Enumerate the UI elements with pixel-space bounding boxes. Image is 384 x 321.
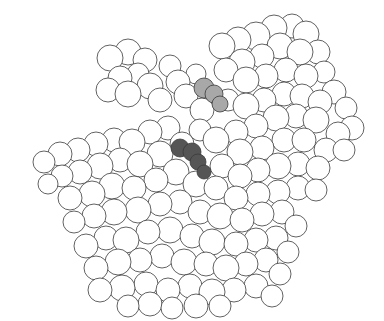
atom [125, 197, 151, 223]
atom [74, 234, 98, 258]
atom [228, 164, 252, 188]
atom [128, 248, 152, 272]
atom [38, 174, 58, 194]
atom [88, 278, 112, 302]
molecule-figure [0, 0, 384, 321]
atom [285, 215, 307, 237]
atom [136, 220, 160, 244]
atom [333, 139, 355, 161]
space-filling-molecule [0, 0, 384, 321]
atom [82, 204, 106, 228]
atom [184, 294, 208, 318]
atom [335, 97, 357, 119]
atom [105, 249, 131, 275]
atom [199, 229, 225, 255]
atom [306, 156, 330, 180]
atom [161, 297, 183, 319]
atom [157, 217, 183, 243]
atom [63, 211, 85, 233]
atom [84, 256, 108, 280]
highlight-atom-light-gray-site [212, 96, 228, 112]
atom [148, 88, 172, 112]
atom [117, 295, 139, 317]
atom [115, 81, 141, 107]
atom [58, 186, 82, 210]
atom [233, 67, 259, 93]
atom [138, 292, 162, 316]
atom [203, 127, 229, 153]
atom [305, 179, 327, 201]
atom [213, 255, 239, 281]
atom [292, 128, 316, 152]
atom [209, 295, 231, 317]
atom [79, 181, 105, 207]
atom [261, 285, 283, 307]
atom [144, 168, 168, 192]
atom [150, 244, 174, 268]
atom [269, 263, 291, 285]
atom [122, 176, 146, 200]
atom [230, 208, 254, 232]
atom [33, 151, 55, 173]
atom [171, 249, 197, 275]
atom [277, 241, 299, 263]
atom [148, 192, 172, 216]
atom [207, 203, 233, 229]
highlight-atom-dark-gray-site [197, 165, 211, 179]
